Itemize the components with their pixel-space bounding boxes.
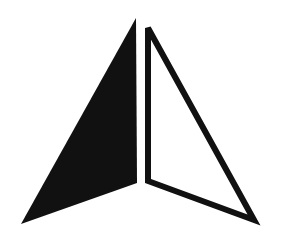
left-filled-triangle — [21, 18, 137, 224]
triangle-logo-icon — [0, 0, 287, 247]
figure-canvas — [0, 0, 287, 247]
right-outlined-triangle — [148, 28, 254, 220]
